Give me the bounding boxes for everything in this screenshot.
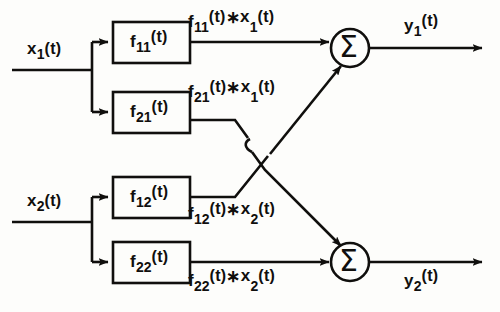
label-block-f21: f21(t) bbox=[130, 103, 168, 120]
sig2-f-sub: 12 bbox=[194, 211, 210, 227]
label-block-f12-arg: (t) bbox=[152, 183, 169, 200]
label-output-y2-base: y bbox=[404, 271, 414, 290]
label-block-f22: f22(t) bbox=[130, 253, 168, 270]
label-output-y2-sub: 2 bbox=[414, 278, 422, 294]
label-output-y1-arg: (t) bbox=[422, 12, 439, 29]
label-block-f11: f11(t) bbox=[130, 33, 168, 50]
wire-f12-lead bbox=[190, 156, 268, 197]
adder-top-sigma: Σ bbox=[339, 32, 358, 62]
label-signal-f11-conv-x1: f11(t)∗x1(t) bbox=[188, 13, 274, 30]
label-output-y1-base: y bbox=[404, 16, 414, 35]
wire-crossover-hop bbox=[246, 139, 252, 152]
sig0-f-sub: 11 bbox=[194, 19, 209, 35]
label-block-f21-arg: (t) bbox=[152, 98, 169, 115]
wire-f12-to-adder-top bbox=[270, 66, 341, 154]
label-block-f11-arg: (t) bbox=[151, 28, 168, 45]
label-input-x2-arg: (t) bbox=[45, 192, 62, 209]
label-block-f22-sub: 22 bbox=[136, 259, 152, 275]
sig2-op: ∗ bbox=[226, 200, 240, 219]
label-block-f11-sub: 11 bbox=[136, 39, 151, 55]
label-input-x1-base: x bbox=[27, 39, 37, 58]
sig1-f-sub: 21 bbox=[194, 89, 210, 105]
sig1-op: ∗ bbox=[226, 78, 240, 97]
sig1-x-arg: (t) bbox=[258, 78, 275, 95]
label-input-x2-base: x bbox=[27, 191, 37, 210]
label-output-y1: y1(t) bbox=[404, 17, 438, 34]
label-output-y2: y2(t) bbox=[404, 272, 438, 289]
label-input-x1: x1(t) bbox=[27, 40, 61, 57]
sig1-x-base: x bbox=[241, 77, 251, 96]
label-output-y1-sub: 1 bbox=[414, 23, 422, 39]
wire-f21-to-adder-bottom bbox=[252, 152, 341, 246]
sig0-x-arg: (t) bbox=[258, 8, 275, 25]
wire-f21-lead bbox=[190, 120, 248, 138]
sig3-x-base: x bbox=[241, 266, 251, 285]
adder-bottom-sigma: Σ bbox=[339, 246, 358, 276]
sig0-f-arg: (t) bbox=[209, 8, 226, 25]
sig3-f-sub: 22 bbox=[194, 278, 210, 294]
sig2-f-arg: (t) bbox=[210, 200, 227, 217]
sig0-x-base: x bbox=[240, 7, 250, 26]
label-block-f21-sub: 21 bbox=[136, 109, 152, 125]
label-block-f12-sub: 12 bbox=[136, 194, 152, 210]
label-signal-f21-conv-x1: f21(t)∗x1(t) bbox=[188, 83, 275, 100]
label-signal-f12-conv-x2: f12(t)∗x2(t) bbox=[188, 205, 275, 222]
sig3-x-arg: (t) bbox=[258, 267, 275, 284]
label-block-f12: f12(t) bbox=[130, 188, 168, 205]
sig0-x-sub: 1 bbox=[250, 19, 258, 35]
label-signal-f22-conv-x2: f22(t)∗x2(t) bbox=[188, 272, 275, 289]
sig3-op: ∗ bbox=[226, 267, 240, 286]
label-input-x1-arg: (t) bbox=[45, 40, 62, 57]
label-input-x1-sub: 1 bbox=[37, 46, 45, 62]
sig3-f-arg: (t) bbox=[210, 267, 227, 284]
sig2-x-base: x bbox=[241, 199, 251, 218]
label-input-x2: x2(t) bbox=[27, 192, 61, 209]
label-block-f22-arg: (t) bbox=[152, 248, 169, 265]
label-output-y2-arg: (t) bbox=[422, 267, 439, 284]
sig2-x-arg: (t) bbox=[258, 200, 275, 217]
block-diagram-figure: Σ Σ x1(t) x2(t) f11(t) f21(t) f12(t) f22… bbox=[0, 0, 500, 312]
sig0-op: ∗ bbox=[226, 8, 240, 27]
sig1-f-arg: (t) bbox=[210, 78, 227, 95]
label-input-x2-sub: 2 bbox=[37, 198, 45, 214]
